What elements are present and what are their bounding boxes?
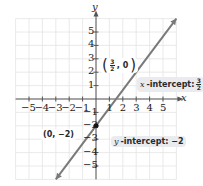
y-tick-label: 4 xyxy=(88,38,94,49)
denominator: 2 xyxy=(110,66,114,72)
y-tick-label: −3 xyxy=(83,132,98,143)
y-tick-label: 5 xyxy=(88,25,94,36)
x-intercept-text: -intercept: xyxy=(147,80,195,89)
x-axis-label: x xyxy=(181,92,187,103)
y-tick-label: 1 xyxy=(88,79,94,90)
y-axis-label: y xyxy=(92,1,98,12)
y-tick-label: −1 xyxy=(83,106,98,117)
point-rest: , 0 xyxy=(117,61,128,70)
x-intercept-fraction: 3 2 xyxy=(196,78,201,91)
x-tick-label: 1 xyxy=(106,102,112,113)
x-tick-label: 4 xyxy=(147,102,153,113)
close-paren: ) xyxy=(130,58,136,73)
axes xyxy=(16,11,184,180)
y-tick-label: −5 xyxy=(83,159,98,170)
y-intercept-point-label: (0, −2) xyxy=(40,129,77,140)
y-var: y xyxy=(114,137,119,146)
x-intercept-point-label: ( 3 2 , 0 ) xyxy=(100,58,138,73)
x-tick-label: 2 xyxy=(120,102,126,113)
x-var: x xyxy=(140,80,145,89)
open-paren: ( xyxy=(102,58,108,73)
y-intercept-text: -intercept: −2 xyxy=(121,137,184,146)
x-tick-label: 5 xyxy=(160,102,166,113)
coordinate-plane xyxy=(0,0,203,186)
y-tick-label: −2 xyxy=(83,119,98,130)
x-tick-label: 3 xyxy=(133,102,139,113)
y-tick-label: 2 xyxy=(88,65,94,76)
y-tick-label: 3 xyxy=(88,52,94,63)
denominator: 2 xyxy=(197,85,201,91)
y-tick-label: −4 xyxy=(83,146,98,157)
x-intercept-annotation: x-intercept: 3 2 xyxy=(137,77,203,92)
y-intercept-annotation: y-intercept: −2 xyxy=(111,136,186,147)
fraction: 3 2 xyxy=(110,59,115,72)
